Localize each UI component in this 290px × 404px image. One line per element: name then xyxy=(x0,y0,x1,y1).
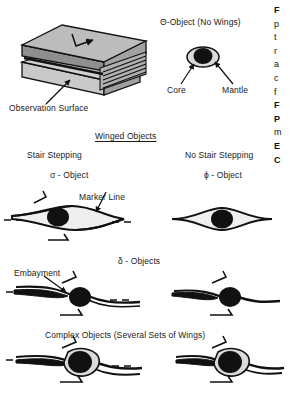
caption-line: E xyxy=(274,140,290,154)
caption-line: m xyxy=(274,126,290,140)
caption-line: r xyxy=(274,45,290,59)
winged-objects-heading: Winged Objects xyxy=(95,131,156,141)
embayment-label: Embayment xyxy=(14,268,60,278)
mantle-leader xyxy=(215,62,233,84)
stair-stepping-label: Stair Stepping xyxy=(27,150,82,160)
caption-line: p xyxy=(274,18,290,32)
block-diagram xyxy=(22,25,146,104)
caption-line: a xyxy=(274,58,290,72)
caption-line: F xyxy=(274,99,290,113)
theta-object-title: Θ-Object (No Wings) xyxy=(160,17,241,27)
caption-line: f xyxy=(274,86,290,100)
delta-object-right xyxy=(172,271,280,315)
complex-object-right xyxy=(176,336,284,382)
marker-line-label: Marker Line xyxy=(79,192,125,202)
caption-line: t xyxy=(274,31,290,45)
caption-column: F p t r a c f F P m E C xyxy=(274,4,290,174)
phi-object xyxy=(172,208,272,230)
figure-canvas xyxy=(0,0,290,404)
theta-object xyxy=(181,47,233,84)
caption-line: P xyxy=(274,113,290,127)
caption-line: c xyxy=(274,72,290,86)
sigma-object-label: σ - Object xyxy=(50,170,88,180)
delta-objects-heading: δ - Objects xyxy=(118,256,160,266)
core-label: Core xyxy=(167,85,186,95)
complex-objects-heading: Complex Objects (Several Sets of Wings) xyxy=(45,330,205,340)
core-leader xyxy=(181,64,194,84)
mantle-label: Mantle xyxy=(222,85,248,95)
observation-surface-label: Observation Surface xyxy=(9,103,88,113)
complex-object-left xyxy=(6,336,142,382)
caption-line: F xyxy=(274,4,290,18)
phi-object-label: ϕ - Object xyxy=(204,170,242,180)
caption-line: C xyxy=(274,154,290,168)
no-stair-stepping-label: No Stair Stepping xyxy=(185,150,253,160)
